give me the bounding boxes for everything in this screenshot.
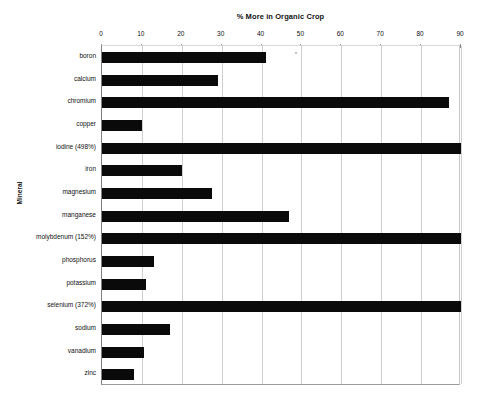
y-axis-category-label: manganese <box>0 211 96 218</box>
y-axis-category-label: selenium (372%) <box>0 301 96 308</box>
bar <box>102 233 461 244</box>
y-axis-title: Mineral <box>2 103 9 163</box>
x-tick-label: 10 <box>137 30 144 37</box>
x-tick-label: 60 <box>337 30 344 37</box>
y-axis-category-label: potassium <box>0 279 96 286</box>
x-tick-label: 70 <box>377 30 384 37</box>
y-axis-category-label: sodium <box>0 324 96 331</box>
chart-title: % More in Organic Crop <box>101 12 460 21</box>
bar <box>102 301 461 312</box>
bar <box>102 188 212 199</box>
bar <box>102 211 289 222</box>
y-axis-category-label: calcium <box>0 75 96 82</box>
bar <box>102 324 170 335</box>
y-axis-category-label: chromium <box>0 97 96 104</box>
plot-area <box>101 45 460 385</box>
bar <box>102 120 142 131</box>
bar <box>102 75 218 86</box>
bar <box>102 143 461 154</box>
x-tick-label: 0 <box>99 30 103 37</box>
y-axis-category-label: iron <box>0 165 96 172</box>
y-axis-category-label: iodine (498%) <box>0 143 96 150</box>
y-axis-category-label: boron <box>0 52 96 59</box>
bar <box>102 256 154 267</box>
bar <box>102 347 144 358</box>
bar <box>102 97 449 108</box>
gridline <box>461 46 462 384</box>
x-tick-label: 40 <box>257 30 264 37</box>
x-tick-label: 50 <box>297 30 304 37</box>
x-tick-label: 20 <box>177 30 184 37</box>
bar <box>102 369 134 380</box>
x-tick-label: 80 <box>416 30 423 37</box>
bar <box>102 279 146 290</box>
y-axis-category-label: copper <box>0 120 96 127</box>
y-axis-category-label: molybdenum (152%) <box>0 233 96 240</box>
y-axis-category-label: zinc <box>0 369 96 376</box>
y-axis-category-label: magnesium <box>0 188 96 195</box>
scan-speck <box>295 52 297 54</box>
bar <box>102 165 182 176</box>
y-axis-category-label: phosphorus <box>0 256 96 263</box>
y-axis-category-label: vanadium <box>0 347 96 354</box>
x-tick-label: 30 <box>217 30 224 37</box>
bar-chart: % More in Organic Crop Mineral 010203040… <box>0 0 485 400</box>
x-tick-label: 90 <box>456 30 463 37</box>
bar <box>102 52 266 63</box>
